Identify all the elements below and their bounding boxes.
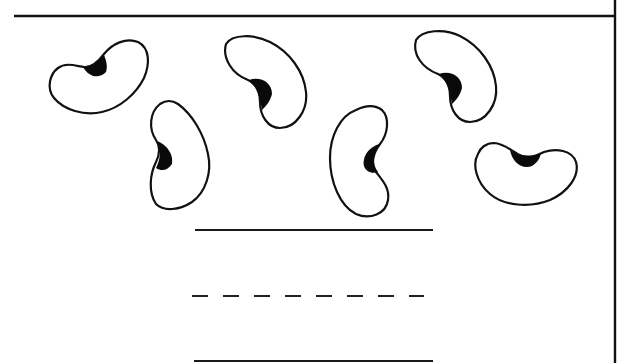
worksheet-drawing: [0, 0, 618, 363]
bean-1-icon: [50, 40, 148, 113]
bean-3-icon: [225, 36, 306, 128]
bean-6-icon: [475, 143, 576, 205]
bean-5-icon: [415, 31, 496, 122]
worksheet-canvas: [0, 0, 618, 363]
bean-4-icon: [330, 106, 388, 216]
bean-2-icon: [151, 101, 209, 209]
